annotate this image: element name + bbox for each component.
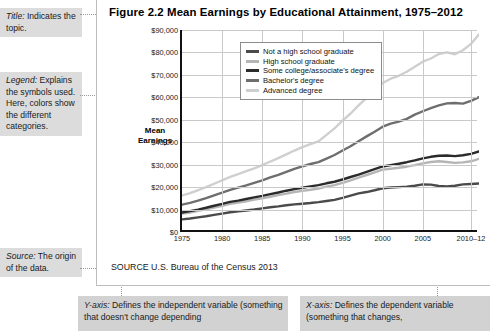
- annotation-yaxis-note: Y-axis: Defines the independent variable…: [78, 296, 288, 331]
- x-axis-tick-label: 1975: [174, 234, 190, 243]
- legend-swatch-icon: [246, 79, 259, 82]
- x-axis-tick-label: 1995: [334, 234, 350, 243]
- legend-item: Advanced degree: [246, 85, 374, 95]
- y-axis-tick-label: $60,000: [151, 93, 178, 102]
- chart-legend: Not a high school graduateHigh school gr…: [240, 42, 382, 100]
- annotation-legend-note: Legend: Explains the symbols used. Here,…: [0, 72, 82, 136]
- series-line: [182, 184, 479, 220]
- x-axis-tick-label: 2005: [415, 234, 431, 243]
- gridline-vertical: [423, 30, 424, 230]
- annotation-title-lead: Title:: [6, 11, 25, 21]
- gridline-horizontal: [182, 187, 477, 188]
- legend-item: Bachelor's degree: [246, 76, 374, 86]
- y-axis-tick-label: $40,000: [151, 138, 178, 147]
- annotation-title-note: Title: Indicates the topic.: [0, 8, 82, 37]
- plot-area: Not a high school graduateHigh school gr…: [180, 30, 477, 232]
- figure-panel: Figure 2.2 Mean Earnings by Educational …: [96, 0, 490, 286]
- legend-item-label: High school graduate: [263, 57, 335, 66]
- y-axis-tick-label: $20,000: [151, 183, 178, 192]
- chart-area: Mean Earnings Not a high school graduate…: [135, 30, 479, 254]
- series-line: [182, 97, 479, 205]
- legend-item-label: Bachelor's degree: [263, 76, 324, 85]
- gridline-horizontal: [182, 210, 477, 211]
- gridline-horizontal: [182, 142, 477, 143]
- y-axis-tick-label: $10,000: [151, 205, 178, 214]
- annotation-xaxis-note: X-axis: Defines the dependent variable (…: [300, 296, 490, 331]
- legend-item: Not a high school graduate: [246, 47, 374, 57]
- annotation-source-lead: Source:: [6, 251, 36, 261]
- annotation-legend-lead: Legend:: [6, 75, 37, 85]
- gridline-vertical: [383, 30, 384, 230]
- legend-item: High school graduate: [246, 57, 374, 67]
- x-axis-tick-label: 1985: [254, 234, 270, 243]
- gridline-vertical: [471, 30, 472, 230]
- x-axis-tick-label: 2010–12: [457, 234, 486, 243]
- figure-title: Figure 2.2 Mean Earnings by Educational …: [109, 6, 463, 18]
- legend-swatch-icon: [246, 50, 259, 53]
- annotation-yaxis-lead: Y-axis:: [84, 300, 110, 310]
- gridline-horizontal: [182, 165, 477, 166]
- legend-item: Some college/associate's degree: [246, 66, 374, 76]
- y-axis-tick-label: $80,000: [151, 48, 178, 57]
- legend-swatch-icon: [246, 69, 259, 72]
- annotation-source-note: Source: The origin of the data.: [0, 248, 82, 277]
- annotation-yaxis-rest: Defines the independent variable (someth…: [84, 300, 283, 322]
- y-axis-tick-label: $90,000: [151, 26, 178, 35]
- gridline-vertical: [222, 30, 223, 230]
- y-axis-tick-label: $70,000: [151, 70, 178, 79]
- legend-item-label: Some college/associate's degree: [263, 66, 374, 75]
- x-axis-tick-label: 1980: [214, 234, 230, 243]
- legend-swatch-icon: [246, 89, 259, 92]
- legend-item-label: Not a high school graduate: [263, 47, 354, 56]
- x-axis-tick-label: 1990: [294, 234, 310, 243]
- gridline-horizontal: [182, 120, 477, 121]
- y-axis-tick-label: $50,000: [151, 115, 178, 124]
- legend-swatch-icon: [246, 60, 259, 63]
- annotation-xaxis-lead: X-axis:: [306, 300, 332, 310]
- y-axis-tick-label: $30,000: [151, 160, 178, 169]
- gridline-horizontal: [182, 30, 477, 31]
- x-axis-tick-label: 2000: [374, 234, 390, 243]
- figure-source: SOURCE U.S. Bureau of the Census 2013: [111, 262, 278, 272]
- legend-item-label: Advanced degree: [263, 86, 323, 95]
